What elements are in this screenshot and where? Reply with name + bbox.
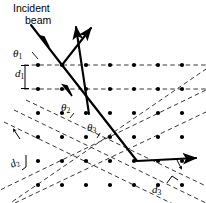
lattice-dot xyxy=(108,111,112,115)
theta1-subscript: 1 xyxy=(18,52,22,61)
lattice-dot xyxy=(108,87,112,91)
lattice-dot xyxy=(84,63,88,67)
d2-measure-arrow xyxy=(14,130,20,139)
lattice-dot xyxy=(132,87,136,91)
plane-d2-line-3 xyxy=(26,100,206,186)
d3-measure-leader xyxy=(172,176,178,180)
lattice-dot xyxy=(180,135,184,139)
diffraction-diagram-svg xyxy=(0,0,206,203)
transmitted-beam-arrowhead xyxy=(63,85,72,96)
lattice-dot xyxy=(180,111,184,115)
lattice-dot xyxy=(132,183,136,187)
theta3-subscript: 3 xyxy=(92,126,96,135)
lattice-dot xyxy=(108,135,112,139)
transmitted-beam xyxy=(62,65,196,161)
lattice-dot xyxy=(132,111,136,115)
transmitted-beam-path xyxy=(62,65,196,161)
lattice-dot xyxy=(156,135,160,139)
theta1-leader xyxy=(32,52,38,59)
theta2-leader xyxy=(70,113,74,118)
d2-measure-leader xyxy=(22,167,26,170)
d3-label: d3 xyxy=(152,184,161,197)
lattice-dot xyxy=(84,159,88,163)
lattice-dot xyxy=(36,159,40,163)
lattice-dot xyxy=(180,183,184,187)
plane-d2-line-1 xyxy=(14,110,206,203)
d3-measure-bar xyxy=(167,176,172,183)
lattice-dot xyxy=(180,63,184,67)
lattice-dot xyxy=(108,159,112,163)
lattice-dot xyxy=(84,183,88,187)
theta3-label: θ3 xyxy=(87,122,96,135)
theta1-label: θ1 xyxy=(13,48,22,61)
lattice-dot xyxy=(36,183,40,187)
lattice-dot xyxy=(84,111,88,115)
lattice-dot xyxy=(36,135,40,139)
d3-subscript: 3 xyxy=(158,188,162,197)
lattice-dot xyxy=(156,111,160,115)
lattice-dot xyxy=(108,63,112,67)
plane-set-d1 xyxy=(24,65,206,89)
d1-subscript: 1 xyxy=(21,72,25,81)
lattice-dot xyxy=(156,63,160,67)
lattice-dot xyxy=(36,87,40,91)
lattice-dot xyxy=(60,135,64,139)
lattice-dot xyxy=(156,87,160,91)
incident-beam-label-line1: Incident xyxy=(13,3,50,14)
figure-canvas: Incident beam θ1 d1 θ2 θ3 d2 d3 xyxy=(0,0,206,203)
lattice-dot xyxy=(108,183,112,187)
d1-label: d1 xyxy=(15,68,24,81)
incident-beam-label-line2: beam xyxy=(25,15,51,26)
theta2-label: θ2 xyxy=(61,102,70,115)
lattice-dot xyxy=(132,135,136,139)
lattice-dot xyxy=(60,87,64,91)
lattice-dot xyxy=(36,111,40,115)
plane-d2-line-2 xyxy=(4,122,206,203)
theta2-subscript: 2 xyxy=(66,106,70,115)
lattice-dot xyxy=(132,63,136,67)
lattice-dot xyxy=(60,159,64,163)
plane-set-d2 xyxy=(4,100,206,203)
incident-beam-arrowhead xyxy=(40,36,49,47)
lattice-dot xyxy=(180,87,184,91)
lattice-dot xyxy=(36,63,40,67)
lattice-dot xyxy=(60,183,64,187)
plane-d3-line-3 xyxy=(0,112,206,203)
lattice-dot xyxy=(84,135,88,139)
